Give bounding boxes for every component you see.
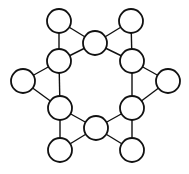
graph-diagram: [0, 0, 189, 174]
graph-node: [48, 138, 72, 162]
graph-node: [48, 96, 72, 120]
graph-node: [47, 9, 71, 33]
graph-node: [11, 69, 35, 93]
graph-node: [120, 96, 144, 120]
graph-node: [83, 31, 107, 55]
graph-node: [47, 49, 71, 73]
graph-node: [120, 138, 144, 162]
nodes-layer: [11, 9, 180, 162]
graph-node: [119, 9, 143, 33]
graph-node: [120, 49, 144, 73]
graph-node: [156, 69, 180, 93]
graph-node: [84, 116, 108, 140]
